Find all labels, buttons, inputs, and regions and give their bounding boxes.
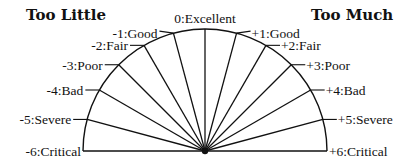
scale-label-minus4: -4:Bad — [47, 83, 84, 98]
severity-gauge-diagram: Too Little Too Much -6:Critical-5:Severe… — [0, 0, 406, 164]
spoke-2 — [205, 45, 266, 151]
scale-label-zero: 0:Excellent — [174, 11, 236, 26]
leader--1 — [159, 31, 173, 33]
leader-plus1 — [237, 31, 251, 33]
gauge-hub — [202, 148, 208, 154]
scale-label-plus5: +5:Severe — [338, 112, 393, 127]
scale-label-plus3: +3:Poor — [306, 58, 350, 73]
scale-label-plus4: +4:Bad — [326, 83, 366, 98]
title-too-much: Too Much — [311, 6, 393, 24]
spoke-5 — [205, 119, 323, 151]
spoke--3 — [119, 65, 205, 151]
scale-label-minus6: -6:Critical — [26, 144, 82, 159]
spoke-4 — [205, 90, 311, 151]
scale-label-plus2: +2:Fair — [281, 38, 321, 53]
gauge-labels: -6:Critical-5:Severe-4:Bad-3:Poor-2:Fair… — [19, 11, 392, 159]
spoke--2 — [144, 45, 205, 151]
spoke--5 — [87, 119, 205, 151]
spoke--4 — [99, 90, 205, 151]
scale-label-plus6: +6:Critical — [329, 144, 388, 159]
scale-label-minus5: -5:Severe — [19, 112, 71, 127]
spoke--1 — [173, 33, 205, 151]
scale-label-minus1: -1:Good — [112, 26, 157, 41]
title-too-little: Too Little — [26, 6, 106, 24]
spoke-1 — [205, 33, 237, 151]
spoke-3 — [205, 65, 291, 151]
scale-label-minus3: -3:Poor — [62, 58, 103, 73]
